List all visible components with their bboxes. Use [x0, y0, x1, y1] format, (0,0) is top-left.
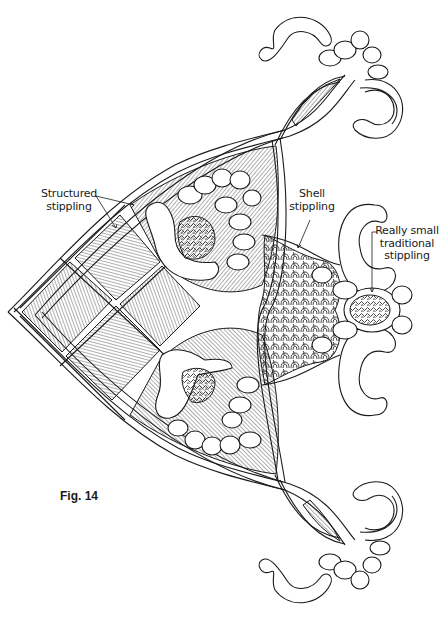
- label-line: Shell: [288, 188, 336, 201]
- label-shell-stippling: Shell stippling: [288, 188, 336, 213]
- shell-stippling-region: [258, 235, 340, 385]
- quilt-motif-drawing: [0, 0, 441, 621]
- bottom-flourish: [259, 482, 403, 603]
- label-line: stippling: [374, 250, 440, 263]
- label-line: stippling: [40, 201, 98, 214]
- label-traditional-stippling: Really small traditional stippling: [374, 225, 440, 263]
- label-line: stippling: [288, 201, 336, 214]
- top-flourish: [259, 17, 403, 138]
- figure-caption: Fig. 14: [60, 489, 98, 503]
- label-line: Structured: [40, 188, 98, 201]
- label-structured-stippling: Structured stippling: [40, 188, 98, 213]
- label-line: Really small: [374, 225, 440, 238]
